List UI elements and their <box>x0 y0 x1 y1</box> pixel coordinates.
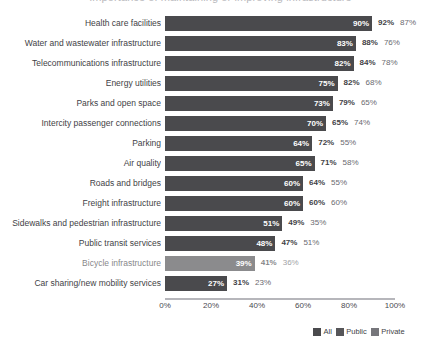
value-private: 23% <box>255 273 271 293</box>
category-label: Health care facilities <box>0 13 161 33</box>
category-label: Parking <box>0 133 161 153</box>
bar-value-all: 65% <box>165 156 315 171</box>
value-public: 49% <box>288 213 304 233</box>
bar-value-all: 75% <box>165 76 338 91</box>
category-label: Roads and bridges <box>0 173 161 193</box>
x-axis-line <box>165 298 395 300</box>
bar-value-all: 73% <box>165 96 333 111</box>
value-public: 47% <box>281 233 297 253</box>
value-public: 82% <box>344 73 360 93</box>
value-private: 74% <box>354 113 370 133</box>
category-label: Telecommunications infrastructure <box>0 53 161 73</box>
x-tick-label: 80% <box>329 301 369 310</box>
x-axis-tick-labels: 0%20%40%60%80%100% <box>0 301 441 315</box>
bar-value-all: 39% <box>165 256 255 271</box>
value-private: 36% <box>283 253 299 273</box>
category-label: Intercity passenger connections <box>0 113 161 133</box>
value-public: 65% <box>332 113 348 133</box>
value-public: 92% <box>378 13 394 33</box>
value-private: 65% <box>361 93 377 113</box>
category-label: Public transit services <box>0 233 161 253</box>
chart-row: Parking64%72%55% <box>0 133 441 153</box>
chart-row: Sidewalks and pedestrian infrastructure5… <box>0 213 441 233</box>
infrastructure-priorities-chart: Importance of maintaining or improving i… <box>0 0 441 339</box>
category-label: Bicycle infrastructure <box>0 253 161 273</box>
value-private: 68% <box>366 73 382 93</box>
value-private: 55% <box>340 133 356 153</box>
bar-value-all: 60% <box>165 196 303 211</box>
bar-value-all: 51% <box>165 216 282 231</box>
legend-item-public[interactable]: Public <box>336 327 367 336</box>
value-public: 41% <box>261 253 277 273</box>
plot-area: Health care facilities90%92%87%Water and… <box>0 13 441 298</box>
x-tick-label: 0% <box>145 301 185 310</box>
category-label: Air quality <box>0 153 161 173</box>
chart-row: Air quality65%71%58% <box>0 153 441 173</box>
value-public: 79% <box>339 93 355 113</box>
chart-row: Roads and bridges60%64%55% <box>0 173 441 193</box>
value-private: 76% <box>384 33 400 53</box>
bar-value-all: 60% <box>165 176 303 191</box>
value-public: 88% <box>362 33 378 53</box>
chart-row: Water and wastewater infrastructure83%88… <box>0 33 441 53</box>
legend-swatch-icon <box>313 328 321 336</box>
category-label: Parks and open space <box>0 93 161 113</box>
value-private: 58% <box>343 153 359 173</box>
chart-title-cropped: Importance of maintaining or improving i… <box>0 0 441 3</box>
value-public: 72% <box>318 133 334 153</box>
bar-value-all: 82% <box>165 56 354 71</box>
legend-label: Private <box>381 327 404 336</box>
bar-value-all: 48% <box>165 236 275 251</box>
legend-label: Public <box>346 327 366 336</box>
value-public: 84% <box>360 53 376 73</box>
bar-value-all: 64% <box>165 136 312 151</box>
category-label: Sidewalks and pedestrian infrastructure <box>0 213 161 233</box>
value-public: 71% <box>321 153 337 173</box>
chart-row: Energy utilities75%82%68% <box>0 73 441 93</box>
chart-row: Intercity passenger connections70%65%74% <box>0 113 441 133</box>
x-tick-label: 40% <box>237 301 277 310</box>
value-public: 64% <box>309 173 325 193</box>
bar-value-all: 83% <box>165 36 356 51</box>
value-private: 87% <box>400 13 416 33</box>
chart-row: Bicycle infrastructure39%41%36% <box>0 253 441 273</box>
legend-swatch-icon <box>371 328 379 336</box>
legend-label: All <box>324 327 332 336</box>
value-public: 60% <box>309 193 325 213</box>
category-label: Freight infrastructure <box>0 193 161 213</box>
value-private: 78% <box>382 53 398 73</box>
x-tick-label: 100% <box>375 301 415 310</box>
category-label: Car sharing/new mobility services <box>0 273 161 293</box>
value-public: 31% <box>233 273 249 293</box>
chart-row: Car sharing/new mobility services27%31%2… <box>0 273 441 293</box>
chart-row: Health care facilities90%92%87% <box>0 13 441 33</box>
category-label: Energy utilities <box>0 73 161 93</box>
chart-row: Public transit services48%47%51% <box>0 233 441 253</box>
legend-item-all[interactable]: All <box>313 327 332 336</box>
chart-row: Freight infrastructure60%60%60% <box>0 193 441 213</box>
bar-value-all: 27% <box>165 276 227 291</box>
legend-item-private[interactable]: Private <box>371 327 405 336</box>
chart-legend: AllPublicPrivate <box>313 326 405 337</box>
value-private: 60% <box>331 193 347 213</box>
bar-value-all: 70% <box>165 116 326 131</box>
x-tick-label: 60% <box>283 301 323 310</box>
value-private: 35% <box>310 213 326 233</box>
value-private: 51% <box>303 233 319 253</box>
chart-row: Telecommunications infrastructure82%84%7… <box>0 53 441 73</box>
legend-swatch-icon <box>336 328 344 336</box>
category-label: Water and wastewater infrastructure <box>0 33 161 53</box>
value-private: 55% <box>331 173 347 193</box>
x-tick-label: 20% <box>191 301 231 310</box>
chart-row: Parks and open space73%79%65% <box>0 93 441 113</box>
bar-value-all: 90% <box>165 16 372 31</box>
